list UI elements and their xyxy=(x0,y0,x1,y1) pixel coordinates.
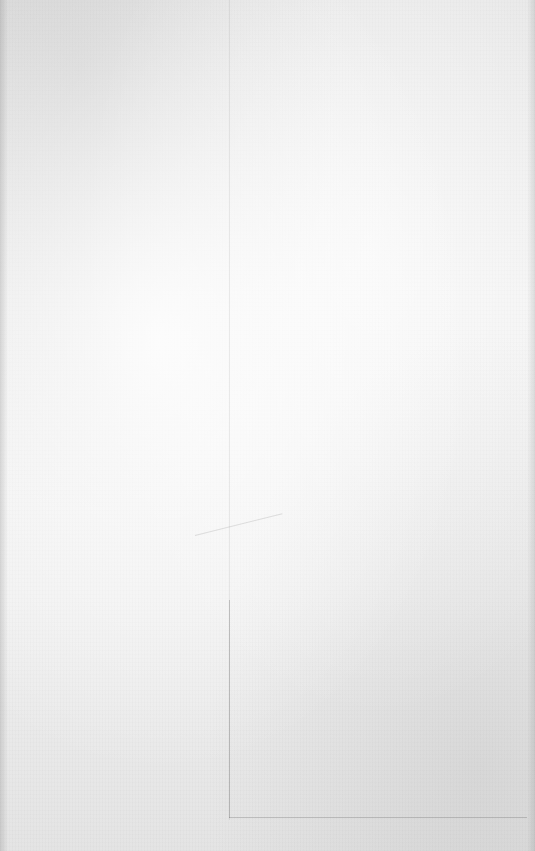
right-edge-shadow xyxy=(527,0,535,851)
faint-frame-vertical xyxy=(229,600,230,818)
faint-frame-horizontal xyxy=(229,817,527,818)
paper-crease xyxy=(195,513,283,536)
left-edge-shadow xyxy=(0,0,8,851)
paper-surface xyxy=(0,0,535,851)
